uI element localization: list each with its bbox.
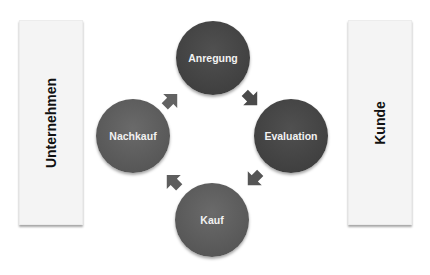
node-anregung-label: Anregung: [188, 52, 238, 64]
unternehmen-label: Unternehmen: [43, 77, 59, 167]
kunde-label: Kunde: [372, 101, 388, 145]
arrow-anregung-to-evaluation-icon: [240, 87, 262, 109]
node-kauf: Kauf: [175, 183, 249, 257]
kunde-panel: Kunde: [348, 20, 412, 225]
unternehmen-panel: Unternehmen: [19, 20, 83, 225]
node-kauf-label: Kauf: [200, 214, 223, 226]
node-nachkauf: Nachkauf: [96, 99, 170, 173]
arrow-nachkauf-to-anregung-icon: [160, 88, 182, 110]
node-evaluation-label: Evaluation: [264, 130, 317, 142]
node-nachkauf-label: Nachkauf: [109, 130, 156, 142]
node-anregung: Anregung: [176, 21, 250, 95]
node-evaluation: Evaluation: [254, 99, 328, 173]
arrow-kauf-to-nachkauf-icon: [162, 169, 184, 191]
arrow-evaluation-to-kauf-icon: [243, 167, 265, 189]
